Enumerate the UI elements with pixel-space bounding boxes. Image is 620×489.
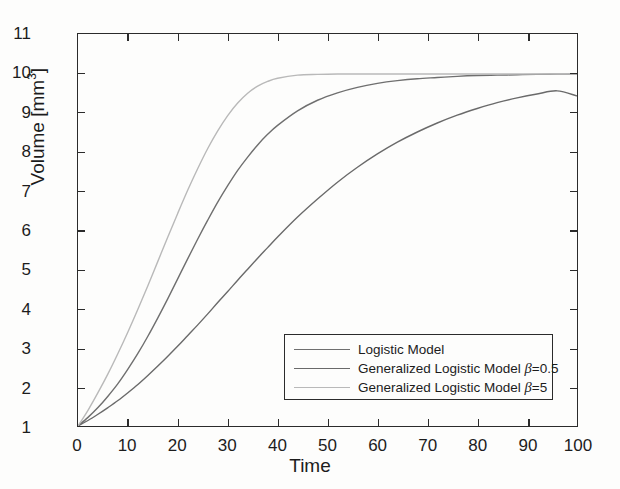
x-tick-label: 20 (168, 437, 187, 454)
x-tick-mark (478, 419, 479, 426)
figure-canvas: Volume [mm3] 1234567891011 0102030405060… (0, 0, 620, 489)
legend-swatch-generalized-beta-5 (294, 387, 350, 388)
y-tick-mark (78, 112, 85, 113)
legend-label-generalized-beta-05: Generalized Logistic Model β=0.5 (358, 360, 558, 377)
y-tick-mark-right (570, 309, 577, 310)
y-tick-mark-right (570, 73, 577, 74)
y-tick-label: 3 (22, 340, 31, 357)
x-tick-label: 0 (72, 437, 81, 454)
legend-swatch-logistic-model (294, 349, 350, 350)
y-tick-mark-right (570, 191, 577, 192)
y-tick-label: 10 (12, 64, 31, 81)
x-tick-mark (328, 419, 329, 426)
legend-swatch-generalized-beta-05 (294, 368, 350, 369)
y-axis-label-text: Volume [mm (27, 80, 48, 186)
y-tick-mark-right (570, 112, 577, 113)
beta-symbol: β (525, 360, 532, 376)
x-tick-mark-top (228, 34, 229, 41)
x-tick-mark-top (328, 34, 329, 41)
beta-symbol: β (525, 379, 532, 395)
y-tick-mark (78, 309, 85, 310)
x-tick-mark (278, 419, 279, 426)
y-tick-label: 5 (22, 261, 31, 278)
legend-box: Logistic Model Generalized Logistic Mode… (284, 334, 553, 400)
x-tick-label: 50 (318, 437, 337, 454)
x-tick-mark (127, 419, 128, 426)
x-tick-label: 100 (564, 437, 592, 454)
y-tick-mark-right (570, 270, 577, 271)
x-tick-mark (528, 419, 529, 426)
x-tick-label: 60 (368, 437, 387, 454)
x-tick-label: 70 (418, 437, 437, 454)
x-tick-mark (378, 419, 379, 426)
x-tick-mark (228, 419, 229, 426)
legend-label-generalized-beta-5: Generalized Logistic Model β=5 (358, 379, 547, 396)
y-tick-mark (78, 230, 85, 231)
y-tick-mark (78, 191, 85, 192)
legend-item-generalized-beta-05: Generalized Logistic Model β=0.5 (285, 359, 552, 378)
y-tick-mark-right (570, 388, 577, 389)
y-tick-mark-right (570, 349, 577, 350)
x-tick-label: 80 (468, 437, 487, 454)
y-tick-mark (78, 270, 85, 271)
y-tick-mark (78, 349, 85, 350)
x-tick-label: 40 (268, 437, 287, 454)
legend-label-logistic-model: Logistic Model (358, 342, 444, 357)
x-tick-mark (428, 419, 429, 426)
y-tick-mark-right (570, 230, 577, 231)
y-tick-label: 4 (22, 300, 31, 317)
x-tick-mark-top (178, 34, 179, 41)
y-tick-label: 9 (22, 103, 31, 120)
x-tick-label: 10 (118, 437, 137, 454)
y-tick-mark (78, 73, 85, 74)
y-axis-label: Volume [mm3] (25, 12, 48, 242)
y-tick-label: 7 (22, 182, 31, 199)
y-tick-label: 1 (22, 419, 31, 436)
x-tick-mark (178, 419, 179, 426)
x-tick-mark-top (528, 34, 529, 41)
legend-item-logistic-model: Logistic Model (285, 340, 552, 359)
y-tick-label: 2 (22, 379, 31, 396)
x-tick-label: 30 (218, 437, 237, 454)
x-tick-mark-top (378, 34, 379, 41)
y-tick-label: 6 (22, 222, 31, 239)
legend-item-generalized-beta-5: Generalized Logistic Model β=5 (285, 378, 552, 397)
x-axis-label: Time (0, 455, 620, 477)
x-tick-mark-top (278, 34, 279, 41)
y-tick-label: 11 (13, 25, 31, 42)
y-tick-mark-right (570, 152, 577, 153)
y-tick-label: 8 (22, 143, 31, 160)
x-tick-mark-top (478, 34, 479, 41)
x-tick-label: 90 (518, 437, 537, 454)
y-tick-mark (78, 388, 85, 389)
y-tick-mark (78, 152, 85, 153)
x-tick-mark-top (428, 34, 429, 41)
x-tick-mark-top (127, 34, 128, 41)
